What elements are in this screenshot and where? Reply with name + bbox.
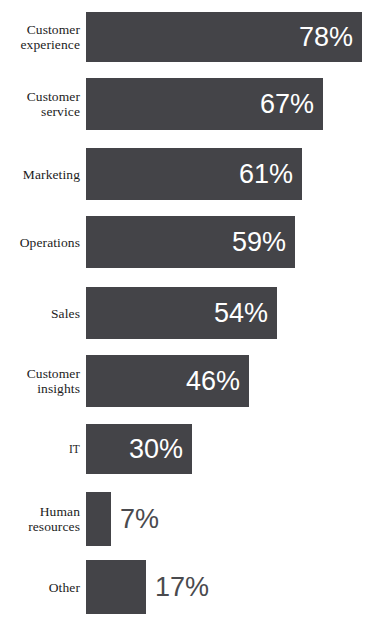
bar-category-label: IT: [4, 442, 86, 457]
bar-track: 59%: [86, 216, 295, 268]
bar-row: Operations59%: [0, 216, 375, 268]
bar-value-label: 30%: [129, 436, 192, 463]
bar-category-label: Other: [4, 580, 86, 595]
bar-row: Marketing61%: [0, 148, 375, 200]
bar-chart: Customerexperience78%Customerservice67%M…: [0, 0, 375, 625]
bar-value-label: 7%: [111, 506, 159, 533]
bar-track: 54%: [86, 287, 277, 339]
bar-category-label: Customerinsights: [4, 366, 86, 396]
bar-chart-rows: Customerexperience78%Customerservice67%M…: [0, 0, 375, 625]
bar-category-label: Operations: [4, 235, 86, 250]
bar-row: Customerservice67%: [0, 78, 375, 130]
bar-row: Sales54%: [0, 287, 375, 339]
bar-category-label-line1: Marketing: [4, 167, 80, 182]
bar-value-label: 59%: [232, 229, 295, 256]
bar-value-label: 54%: [214, 300, 277, 327]
bar-category-label-line2: resources: [4, 519, 80, 534]
bar-row: Other17%: [0, 560, 375, 614]
bar[interactable]: 30%: [86, 424, 192, 474]
bar-category-label: Customerservice: [4, 89, 86, 119]
bar-track: 61%: [86, 148, 302, 200]
bar-category-label-line2: experience: [4, 37, 80, 52]
bar-category-label-line1: Other: [4, 580, 80, 595]
bar-track: 30%: [86, 424, 192, 474]
bar[interactable]: 46%: [86, 355, 249, 407]
bar[interactable]: 61%: [86, 148, 302, 200]
bar-track: 78%: [86, 12, 362, 62]
bar-value-label: 17%: [146, 574, 209, 601]
bar-track: 67%: [86, 78, 323, 130]
bar-value-label: 67%: [260, 91, 323, 118]
bar-row: Humanresources7%: [0, 492, 375, 546]
bar-value-label: 46%: [186, 368, 249, 395]
bar-category-label: Customerexperience: [4, 22, 86, 52]
bar[interactable]: [86, 560, 146, 614]
bar-category-label-line2: service: [4, 104, 80, 119]
bar-track: 46%: [86, 355, 249, 407]
bar-category-label: Humanresources: [4, 504, 86, 534]
bar-category-label-line1: Operations: [4, 235, 80, 250]
bar[interactable]: 59%: [86, 216, 295, 268]
bar-category-label-line1: Sales: [4, 306, 80, 321]
bar-category-label: Sales: [4, 306, 86, 321]
bar[interactable]: 78%: [86, 12, 362, 62]
bar-category-label-line1: Customer: [4, 89, 80, 104]
bar-row: Customerexperience78%: [0, 12, 375, 62]
bar-value-label: 78%: [299, 24, 362, 51]
bar-category-label-line2: insights: [4, 381, 80, 396]
bar-category-label: Marketing: [4, 167, 86, 182]
bar-category-label-line1: IT: [4, 442, 80, 457]
bar-category-label-line1: Human: [4, 504, 80, 519]
bar[interactable]: 67%: [86, 78, 323, 130]
bar-track: 7%: [86, 492, 159, 546]
bar-category-label-line1: Customer: [4, 366, 80, 381]
bar-category-label-line1: Customer: [4, 22, 80, 37]
bar-track: 17%: [86, 560, 209, 614]
bar-row: IT30%: [0, 424, 375, 474]
bar-row: Customerinsights46%: [0, 355, 375, 407]
bar-value-label: 61%: [239, 161, 302, 188]
bar[interactable]: 54%: [86, 287, 277, 339]
bar[interactable]: [86, 492, 111, 546]
